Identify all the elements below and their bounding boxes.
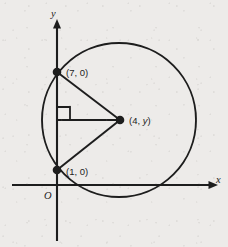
segment-center-to-upper-point — [57, 72, 120, 120]
point-dot-upper-y-intercept — [53, 68, 62, 77]
figure-canvas: (7, 0) (1, 0) (4, y) y x O — [0, 0, 228, 247]
label-x-axis: x — [215, 174, 221, 185]
point-dot-circle-center — [116, 116, 125, 125]
label-center-prefix: (4, — [129, 115, 143, 126]
label-point-upper-y-intercept: (7, 0) — [66, 67, 88, 78]
label-origin: O — [44, 190, 52, 201]
label-point-circle-center: (4, y) — [129, 115, 151, 126]
y-axis-arrow-icon — [53, 19, 61, 29]
label-y-axis: y — [50, 8, 56, 19]
label-center-suffix: ) — [147, 115, 150, 126]
right-angle-marker-icon — [57, 107, 70, 120]
segment-center-to-lower-point — [57, 120, 120, 170]
label-point-lower-y-intercept: (1, 0) — [66, 166, 88, 177]
construction-segments-group — [57, 72, 120, 170]
point-dot-lower-y-intercept — [53, 166, 62, 175]
circle-geometry-diagram: (7, 0) (1, 0) (4, y) y x O — [0, 0, 228, 247]
